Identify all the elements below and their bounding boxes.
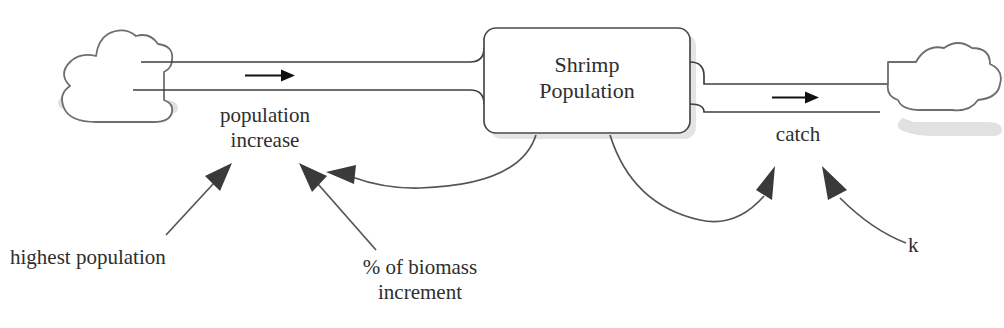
catch-pipe — [690, 62, 888, 112]
highest-population-link — [166, 163, 232, 235]
catch-label: catch — [738, 122, 858, 147]
inflow-direction-arrow — [245, 70, 295, 82]
stock-to-catch-link — [610, 135, 775, 222]
highest-population-label: highest population — [10, 245, 310, 270]
outflow-direction-arrow — [772, 92, 819, 104]
stock-label: Shrimp Population — [484, 52, 690, 104]
k-label: k — [908, 233, 948, 258]
biomass-increment-label: % of biomass increment — [300, 255, 540, 305]
stock-flow-diagram: Shrimp Population population increase ca… — [0, 0, 1004, 328]
k-link — [822, 166, 906, 243]
sink-cloud — [888, 43, 1002, 136]
population-increase-label: population increase — [155, 103, 375, 153]
population-increase-pipe — [133, 48, 484, 104]
